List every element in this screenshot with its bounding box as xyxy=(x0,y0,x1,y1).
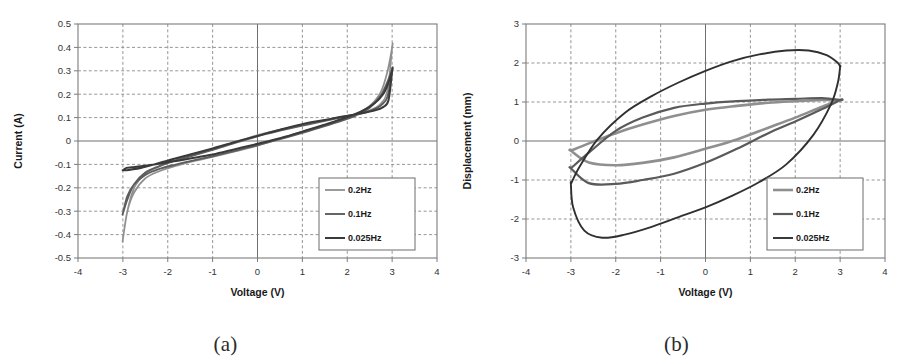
legend-label: 0.1Hz xyxy=(796,209,820,219)
panel-b: -4-3-2-1012343210-1-2-3Voltage (V)Displa… xyxy=(451,0,902,363)
x-tick-label: -1 xyxy=(208,266,216,277)
y-tick-label: -0.4 xyxy=(55,229,71,240)
x-axis-title: Voltage (V) xyxy=(230,286,284,298)
y-tick-label: 0.3 xyxy=(58,65,71,76)
y-tick-label: 0 xyxy=(514,135,519,146)
y-tick-label: -2 xyxy=(511,213,519,224)
y-tick-label: 2 xyxy=(514,57,519,68)
x-tick-label: 4 xyxy=(434,266,439,277)
x-tick-label: -3 xyxy=(119,266,127,277)
x-tick-label: -1 xyxy=(656,266,664,277)
y-tick-label: 1 xyxy=(514,96,519,107)
figure-container: -4-3-2-1012340.50.40.30.20.10-0.1-0.2-0.… xyxy=(0,0,902,363)
x-tick-label: 3 xyxy=(837,266,842,277)
x-tick-label: 3 xyxy=(389,266,394,277)
legend-label: 0.2Hz xyxy=(796,185,820,195)
y-tick-label: -3 xyxy=(511,252,519,263)
x-tick-label: -4 xyxy=(74,266,82,277)
legend-label: 0.1Hz xyxy=(348,209,372,219)
y-tick-label: -0.5 xyxy=(55,252,71,263)
y-tick-label: -0.1 xyxy=(55,159,71,170)
panel-a: -4-3-2-1012340.50.40.30.20.10-0.1-0.2-0.… xyxy=(0,0,451,363)
legend-label: 0.2Hz xyxy=(348,185,372,195)
x-tick-label: -4 xyxy=(522,266,530,277)
y-tick-label: 0.4 xyxy=(58,42,71,53)
x-tick-label: -3 xyxy=(567,266,575,277)
y-tick-label: 0.5 xyxy=(58,18,71,29)
x-tick-label: -2 xyxy=(612,266,620,277)
x-tick-label: 1 xyxy=(300,266,305,277)
y-tick-label: -0.2 xyxy=(55,182,71,193)
panel-b-caption: (b) xyxy=(451,332,902,357)
y-axis-title: Current (A) xyxy=(12,113,24,168)
x-tick-label: 4 xyxy=(882,266,887,277)
chart-legend: 0.2Hz0.1Hz0.025Hz xyxy=(319,178,415,250)
legend-label: 0.025Hz xyxy=(348,233,382,243)
y-tick-label: -1 xyxy=(511,174,519,185)
y-tick-label: 0.2 xyxy=(58,89,71,100)
y-tick-label: 0.1 xyxy=(58,112,71,123)
x-axis-title: Voltage (V) xyxy=(678,286,732,298)
y-tick-label: -0.3 xyxy=(55,206,71,217)
x-tick-label: -2 xyxy=(164,266,172,277)
x-tick-label: 0 xyxy=(703,266,708,277)
x-tick-label: 2 xyxy=(793,266,798,277)
panel-a-caption: (a) xyxy=(0,332,451,357)
y-tick-label: 0 xyxy=(66,135,71,146)
legend-label: 0.025Hz xyxy=(796,233,830,243)
chart-current-vs-voltage: -4-3-2-1012340.50.40.30.20.10-0.1-0.2-0.… xyxy=(0,0,451,310)
chart-displacement-vs-voltage: -4-3-2-1012343210-1-2-3Voltage (V)Displa… xyxy=(451,0,902,310)
y-axis-title: Displacement (mm) xyxy=(461,93,473,190)
x-tick-label: 0 xyxy=(255,266,260,277)
x-tick-label: 2 xyxy=(345,266,350,277)
y-tick-label: 3 xyxy=(514,18,519,29)
x-tick-label: 1 xyxy=(748,266,753,277)
chart-legend: 0.2Hz0.1Hz0.025Hz xyxy=(767,178,863,250)
